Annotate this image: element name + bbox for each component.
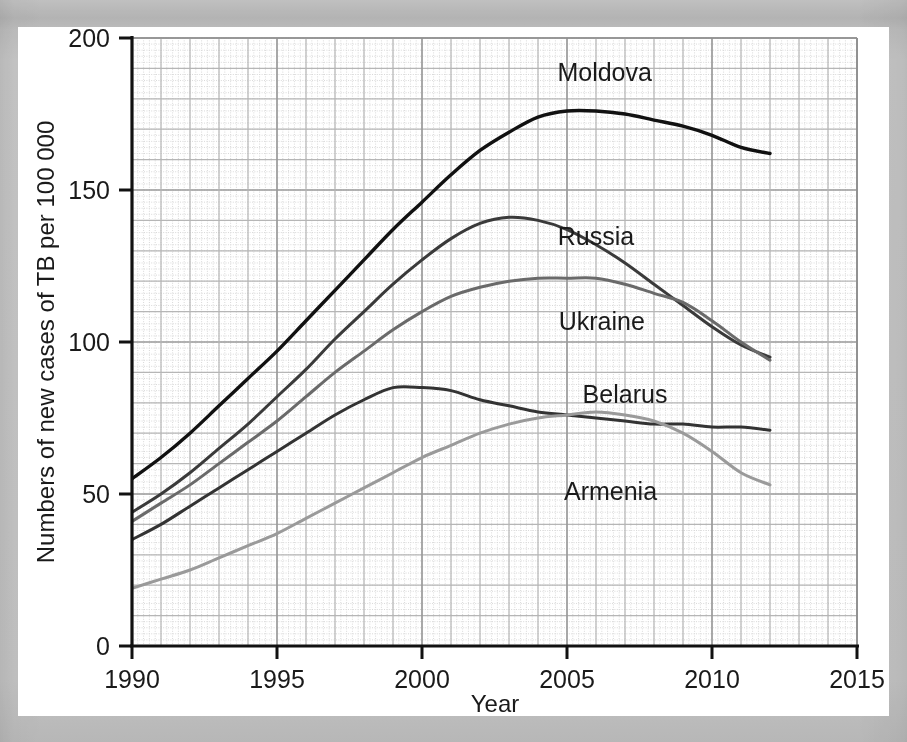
series-label-armenia: Armenia (564, 477, 657, 505)
x-tick-label: 2015 (829, 665, 885, 693)
y-axis-title: Numbers of new cases of TB per 100 000 (32, 121, 59, 563)
series-label-russia: Russia (558, 222, 635, 250)
x-tick-label: 1990 (104, 665, 160, 693)
chart-canvas: MoldovaRussiaUkraineBelarusArmenia 05010… (18, 27, 889, 716)
grid-major (132, 38, 857, 646)
tb-incidence-line-chart: MoldovaRussiaUkraineBelarusArmenia 05010… (18, 27, 889, 716)
x-tick-label: 2005 (539, 665, 595, 693)
series-label-ukraine: Ukraine (559, 307, 645, 335)
x-tick-label: 2010 (684, 665, 740, 693)
y-axis-ticks: 050100150200 (68, 27, 132, 660)
y-tick-label: 200 (68, 27, 110, 52)
x-tick-label: 1995 (249, 665, 305, 693)
x-tick-label: 2000 (394, 665, 450, 693)
y-tick-label: 50 (82, 480, 110, 508)
figure-paper: MoldovaRussiaUkraineBelarusArmenia 05010… (18, 27, 889, 716)
series-label-moldova: Moldova (557, 58, 652, 86)
y-tick-label: 100 (68, 328, 110, 356)
x-axis-title: Year (471, 690, 520, 716)
series-label-belarus: Belarus (583, 380, 668, 408)
x-axis-ticks: 199019952000200520102015 (104, 646, 885, 693)
y-tick-label: 0 (96, 632, 110, 660)
y-tick-label: 150 (68, 176, 110, 204)
